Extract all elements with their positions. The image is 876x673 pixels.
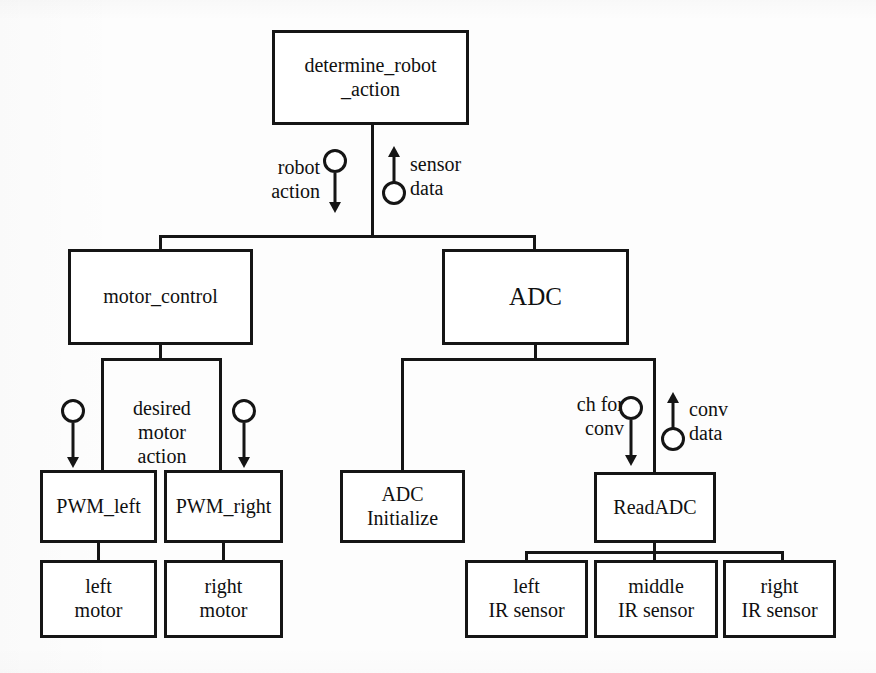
node-pwm-right-label: PWM_right	[172, 495, 276, 519]
node-adc-initialize: ADC Initialize	[340, 470, 465, 543]
port-circle-pwm-right	[232, 399, 256, 423]
node-read-adc: ReadADC	[594, 472, 716, 543]
port-circle-ch-for-conv	[619, 396, 643, 420]
node-left-motor-label: left motor	[71, 575, 127, 622]
node-right-motor: right motor	[164, 560, 283, 638]
edge-adc-initialize-drop	[401, 358, 404, 472]
edge-root-stem	[371, 125, 374, 238]
port-circle-pwm-left	[61, 399, 85, 423]
node-adc-initialize-label: ADC Initialize	[363, 483, 442, 530]
arrow-pwm-right-down	[232, 423, 256, 469]
edge-pwm-left-drop	[101, 358, 104, 472]
port-circle-robot-action	[323, 149, 347, 173]
node-determine-robot-action-label: determine_robot _action	[300, 54, 440, 101]
node-right-ir-sensor: right IR sensor	[723, 560, 836, 638]
edge-read-adc-drop	[653, 358, 656, 472]
edge-label-ch-for-conv: ch for conv	[548, 392, 624, 440]
node-determine-robot-action: determine_robot _action	[272, 30, 469, 125]
edge-pwm-right-drop	[219, 358, 222, 472]
node-adc-label: ADC	[505, 282, 566, 312]
node-pwm-right: PWM_right	[164, 470, 283, 543]
node-pwm-left-label: PWM_left	[52, 495, 144, 519]
edge-label-sensor-data: sensor data	[410, 152, 500, 200]
node-pwm-left: PWM_left	[40, 470, 157, 543]
edge-label-robot-action: robot action	[240, 155, 320, 203]
arrow-robot-action-down	[323, 173, 347, 213]
node-motor-control-label: motor_control	[99, 285, 221, 309]
node-motor-control: motor_control	[68, 249, 253, 345]
node-read-adc-label: ReadADC	[609, 496, 700, 520]
edge-label-desired-motor-action: desired motor action	[110, 396, 214, 468]
node-right-motor-label: right motor	[196, 575, 252, 622]
port-circle-sensor-data	[382, 181, 406, 205]
node-middle-ir-sensor-label: middle IR sensor	[614, 575, 698, 622]
edge-motor-control-bar	[101, 358, 222, 361]
edge-label-conv-data: conv data	[689, 397, 769, 445]
node-middle-ir-sensor: middle IR sensor	[594, 560, 718, 638]
node-left-motor: left motor	[40, 560, 157, 638]
node-left-ir-sensor-label: left IR sensor	[484, 575, 568, 622]
node-adc: ADC	[442, 249, 629, 345]
edge-level2-bar	[159, 235, 536, 238]
diagram-canvas: determine_robot _action robot action sen…	[0, 0, 876, 673]
edge-adc-bar	[401, 358, 656, 361]
node-left-ir-sensor: left IR sensor	[465, 560, 588, 638]
port-circle-conv-data	[661, 427, 685, 451]
arrow-pwm-left-down	[61, 423, 85, 469]
arrow-ch-for-conv-down	[619, 420, 643, 467]
node-right-ir-sensor-label: right IR sensor	[737, 575, 821, 622]
